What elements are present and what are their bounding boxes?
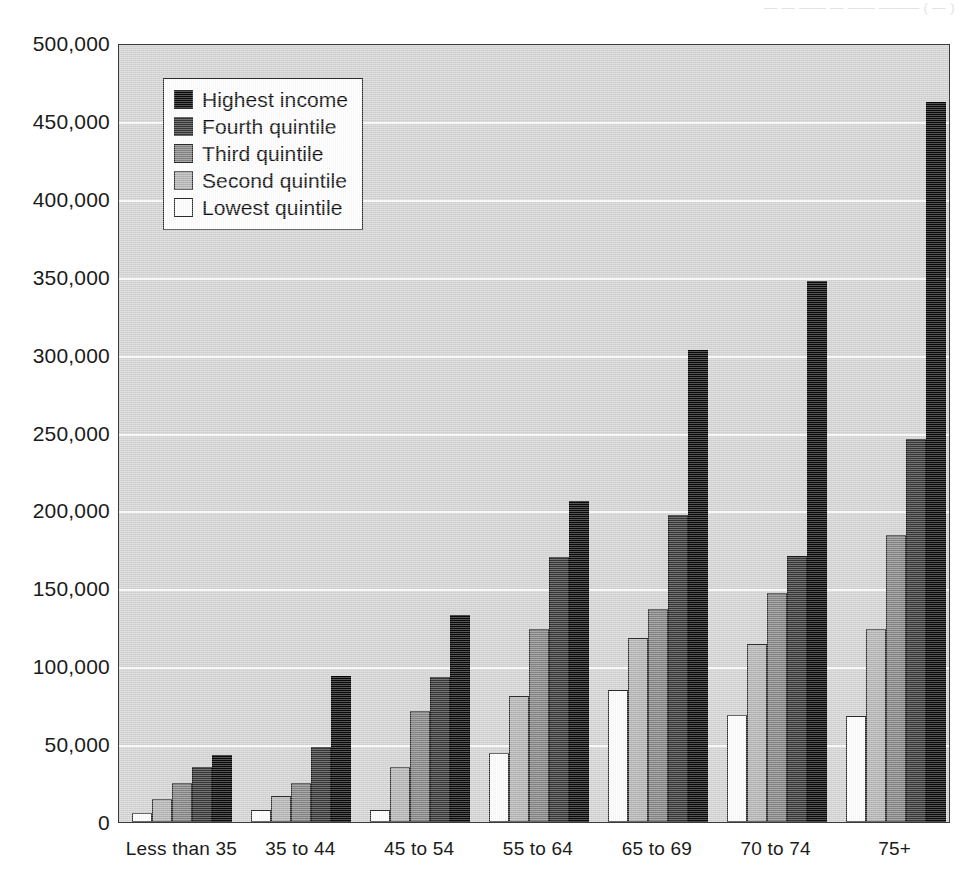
bar <box>906 439 926 822</box>
bar <box>370 810 390 822</box>
legend-item: Third quintile <box>174 140 348 167</box>
x-axis-tick-label: 35 to 44 <box>265 838 335 860</box>
legend-item-label: Lowest quintile <box>202 196 342 220</box>
bar <box>668 515 688 822</box>
x-axis-tick-label: 45 to 54 <box>384 838 454 860</box>
bar <box>192 767 212 822</box>
y-axis-tick-label: 0 <box>2 811 110 835</box>
bar <box>172 783 192 822</box>
bar <box>767 593 787 822</box>
legend-swatch-icon <box>174 90 193 109</box>
bar <box>648 609 668 822</box>
bar <box>450 615 470 822</box>
bar <box>509 696 529 822</box>
bar <box>886 535 906 822</box>
bar <box>152 799 172 822</box>
bar <box>628 638 648 822</box>
bar <box>291 783 311 822</box>
y-axis-tick-label: 100,000 <box>2 655 110 679</box>
bar <box>271 796 291 822</box>
bar <box>688 350 708 822</box>
bar <box>926 102 946 822</box>
bar <box>846 716 866 822</box>
bar <box>569 501 589 822</box>
y-axis-tick-label: 500,000 <box>2 32 110 56</box>
legend-item: Highest income <box>174 86 348 113</box>
bar <box>311 747 331 822</box>
bar <box>489 753 509 822</box>
y-axis-tick-label: 400,000 <box>2 188 110 212</box>
y-axis-tick-label: 300,000 <box>2 344 110 368</box>
bar <box>807 281 827 822</box>
legend-swatch-icon <box>174 198 193 217</box>
x-axis-tick-label: 75+ <box>878 838 911 860</box>
bar <box>787 556 807 822</box>
legend-swatch-icon <box>174 117 193 136</box>
x-axis: Less than 3535 to 4445 to 5455 to 6465 t… <box>118 838 950 872</box>
chart-legend: Highest incomeFourth quintileThird quint… <box>163 78 363 230</box>
legend-item-label: Second quintile <box>202 169 347 193</box>
bar <box>390 767 410 822</box>
legend-swatch-icon <box>174 144 193 163</box>
y-axis-tick-label: 250,000 <box>2 422 110 446</box>
y-axis-tick-label: 350,000 <box>2 266 110 290</box>
x-axis-tick-label: 55 to 64 <box>503 838 573 860</box>
y-axis: 500,000450,000400,000350,000300,000250,0… <box>0 0 110 880</box>
legend-item-label: Third quintile <box>202 142 324 166</box>
y-axis-tick-label: 200,000 <box>2 499 110 523</box>
bar <box>608 690 628 822</box>
legend-item-label: Fourth quintile <box>202 115 337 139</box>
bar <box>727 715 747 823</box>
y-axis-tick-label: 50,000 <box>2 733 110 757</box>
bar <box>251 810 271 822</box>
legend-item-label: Highest income <box>202 88 348 112</box>
legend-swatch-icon <box>174 171 193 190</box>
bar <box>410 711 430 822</box>
bar <box>529 629 549 822</box>
x-axis-tick-label: 65 to 69 <box>622 838 692 860</box>
x-axis-tick-label: 70 to 74 <box>741 838 811 860</box>
bar <box>132 813 152 822</box>
bar <box>549 557 569 822</box>
bar-chart-figure: 500,000450,000400,000350,000300,000250,0… <box>0 0 971 880</box>
legend-item: Second quintile <box>174 167 348 194</box>
bar <box>866 629 886 822</box>
bar <box>212 755 232 822</box>
legend-item: Fourth quintile <box>174 113 348 140</box>
x-axis-tick-label: Less than 35 <box>126 838 237 860</box>
y-axis-tick-label: 450,000 <box>2 110 110 134</box>
bar <box>430 677 450 822</box>
legend-item: Lowest quintile <box>174 194 348 221</box>
bar <box>747 644 767 822</box>
bar <box>331 676 351 822</box>
y-axis-tick-label: 150,000 <box>2 577 110 601</box>
